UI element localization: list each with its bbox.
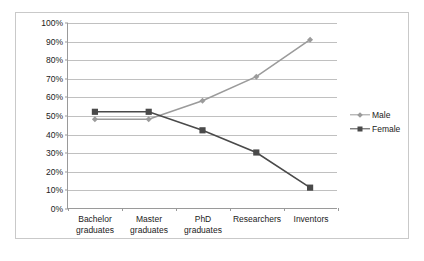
y-axis-tick-label: 70%	[46, 75, 63, 84]
data-point-marker	[92, 109, 98, 115]
legend-swatch-square-icon	[350, 124, 370, 134]
y-axis-tick-label: 10%	[46, 186, 63, 195]
x-axis-tick-mark	[338, 208, 339, 211]
x-axis-tick-label: Inventors	[281, 214, 341, 225]
x-axis-tick-label: Bachelor graduates	[65, 214, 125, 235]
series-male	[92, 37, 313, 123]
legend-item-male[interactable]: Male	[350, 108, 400, 122]
series-overlay	[68, 23, 337, 208]
legend-label: Male	[372, 111, 390, 120]
x-axis-tick-mark	[68, 208, 69, 211]
y-axis-tick-label: 90%	[46, 37, 63, 46]
y-axis-tick-label: 50%	[46, 112, 63, 121]
data-point-marker	[253, 149, 259, 155]
y-axis-tick-label: 20%	[46, 168, 63, 177]
gridline	[68, 209, 337, 210]
x-axis-tick-mark	[176, 208, 177, 211]
series-line	[95, 40, 310, 120]
y-axis-tick-label: 40%	[46, 130, 63, 139]
x-axis-tick-label: Researchers	[227, 214, 287, 225]
x-axis-tick-mark	[284, 208, 285, 211]
y-axis-tick-label: 60%	[46, 93, 63, 102]
x-axis-tick-label: PhD graduates	[173, 214, 233, 235]
data-point-marker	[146, 109, 152, 115]
data-point-marker	[92, 116, 98, 122]
y-axis-tick-label: 80%	[46, 56, 63, 65]
x-axis-tick-mark	[230, 208, 231, 211]
data-point-marker	[199, 127, 205, 133]
y-axis-tick-label: 30%	[46, 149, 63, 158]
data-point-marker	[307, 185, 313, 191]
y-axis-tick-label: 0%	[51, 205, 63, 214]
data-point-marker	[146, 116, 152, 122]
series-line	[95, 112, 310, 188]
plot-area: 100%90%80%70%60%50%40%30%20%10%0% Bachel…	[67, 23, 337, 209]
series-female	[92, 109, 313, 191]
x-axis-tick-mark	[122, 208, 123, 211]
y-axis-tick-label: 100%	[41, 19, 63, 28]
data-point-marker	[200, 98, 206, 104]
chart-frame: 100%90%80%70%60%50%40%30%20%10%0% Bachel…	[15, 12, 409, 239]
chart-legend: MaleFemale	[350, 108, 400, 136]
x-axis-tick-label: Master graduates	[119, 214, 179, 235]
legend-item-female[interactable]: Female	[350, 122, 400, 136]
legend-swatch-diamond-icon	[350, 110, 370, 120]
legend-label: Female	[372, 125, 400, 134]
